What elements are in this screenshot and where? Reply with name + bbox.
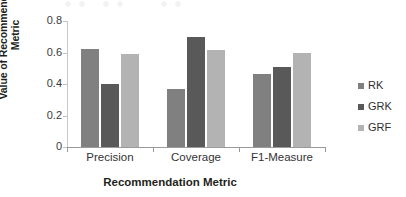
bar-group (67, 21, 153, 147)
y-axis-tick-label: 0.6 (36, 47, 62, 58)
bar-group (153, 21, 239, 147)
y-axis-tick-label: 0.2 (36, 110, 62, 121)
legend-item[interactable]: GRK (358, 96, 406, 117)
y-axis-title: Value of Recommendation Metric (0, 0, 26, 101)
legend: RKGRKGRF (358, 75, 406, 138)
y-axis-title-text: Value of Recommendation Metric (0, 0, 22, 100)
x-axis-category-label: Precision (67, 152, 153, 164)
y-axis-tick-labels: 00.20.40.60.8 (36, 0, 62, 197)
bar-chart: Value of Recommendation Metric 00.20.40.… (0, 0, 406, 197)
title-bleed-artifact (60, 0, 240, 8)
bar-group (239, 21, 325, 147)
bar (101, 84, 119, 147)
bar (293, 53, 311, 148)
bar (187, 37, 205, 147)
bar (253, 74, 271, 147)
x-axis-category-label: F1-Measure (239, 152, 325, 164)
bar (207, 50, 225, 147)
x-axis-title: Recommendation Metric (0, 176, 340, 188)
y-axis-tick-label: 0 (36, 141, 62, 152)
legend-swatch-icon (358, 104, 364, 110)
x-axis-line (67, 147, 325, 148)
y-axis-tick-label: 0.8 (36, 15, 62, 26)
bar (121, 54, 139, 147)
plot-area (67, 21, 325, 147)
x-axis-end-tick (325, 147, 326, 152)
bar (167, 89, 185, 147)
bar (273, 67, 291, 147)
legend-label: RK (368, 80, 383, 91)
legend-item[interactable]: RK (358, 75, 406, 96)
x-axis-category-label: Coverage (153, 152, 239, 164)
y-axis-tick-label: 0.4 (36, 78, 62, 89)
legend-label: GRF (368, 122, 391, 133)
legend-label: GRK (368, 101, 392, 112)
legend-swatch-icon (358, 83, 364, 89)
legend-item[interactable]: GRF (358, 117, 406, 138)
legend-swatch-icon (358, 125, 364, 131)
bar (81, 49, 99, 147)
